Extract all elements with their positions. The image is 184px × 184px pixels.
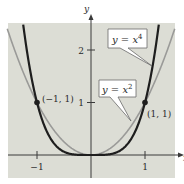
chart: y x −1 1 1 2 (−1, 1) (1, 1) [0, 0, 184, 184]
x-tick-label: 1 [142, 162, 148, 172]
y-tick-label: 2 [78, 46, 84, 56]
y-axis-label: y [83, 4, 90, 14]
point-1-1 [142, 100, 148, 106]
x-tick-label: −1 [30, 162, 43, 172]
point-label-1-1: (1, 1) [147, 109, 171, 119]
x-axis-label: x [183, 153, 184, 163]
point-neg1-1 [34, 100, 40, 106]
y-tick-label: 1 [78, 98, 84, 108]
y-axis-arrow-icon [89, 14, 94, 20]
callout-x-squared-text: y = x2 [101, 83, 133, 95]
point-label-neg1-1: (−1, 1) [42, 94, 74, 104]
